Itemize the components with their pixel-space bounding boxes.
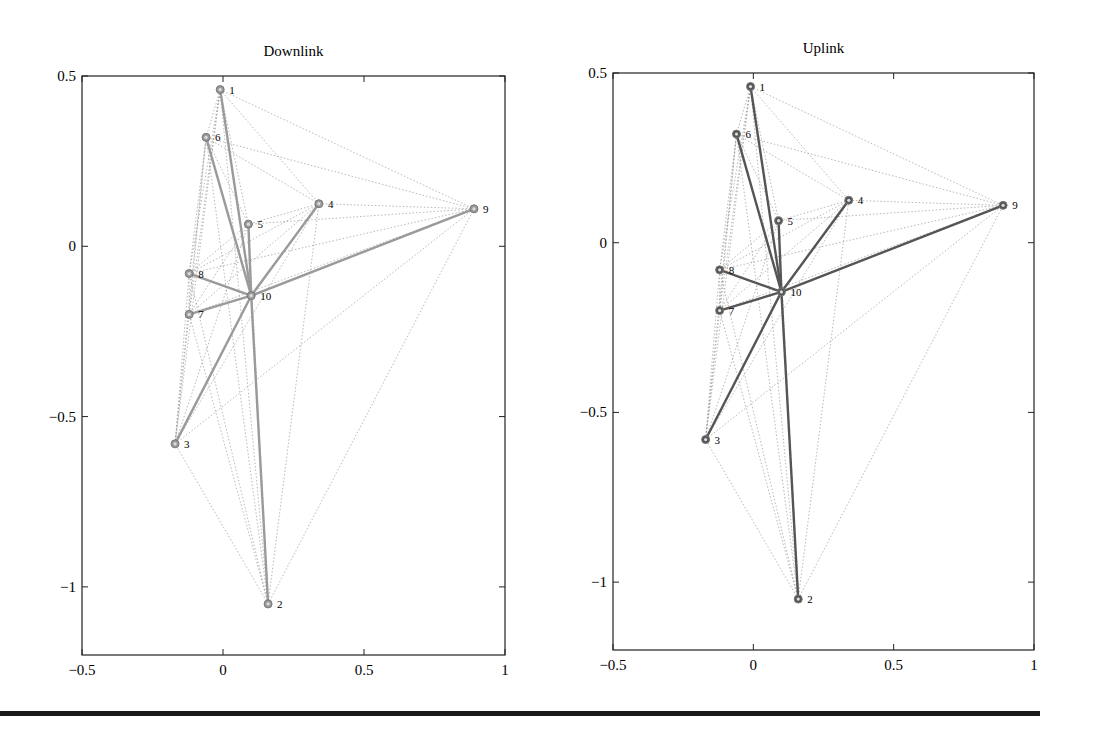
bold-edges <box>175 90 474 604</box>
node-label: 10 <box>790 286 802 298</box>
node-label: 7 <box>729 305 735 317</box>
node-label: 1 <box>229 84 235 96</box>
x-tick-label: 0 <box>219 662 227 678</box>
panel-downlink: Downlink−0.500.510.50−0.5−112345678910 <box>49 43 509 678</box>
y-tick-label: 0.5 <box>588 65 607 81</box>
x-tick-label: 0 <box>750 657 758 673</box>
figure-canvas: Downlink−0.500.510.50−0.5−112345678910Up… <box>0 0 1094 735</box>
node-label: 1 <box>760 81 766 93</box>
node-label: 2 <box>277 598 283 610</box>
chart-title: Downlink <box>264 43 325 59</box>
node-label: 9 <box>483 203 489 215</box>
y-tick-label: 0.5 <box>57 68 76 84</box>
chart-title: Uplink <box>803 40 845 56</box>
axes-frame <box>82 76 505 655</box>
dotted-edges <box>706 87 1004 600</box>
x-tick-label: 1 <box>501 662 509 678</box>
y-tick-label: 0 <box>600 235 608 251</box>
node-label: 5 <box>257 218 263 230</box>
node-label: 10 <box>260 290 272 302</box>
bold-edges <box>706 87 1004 600</box>
node-label: 6 <box>215 131 221 143</box>
node-label: 2 <box>807 593 813 605</box>
node-label: 3 <box>184 438 190 450</box>
x-tick-label: 0.5 <box>355 662 374 678</box>
y-tick-label: −0.5 <box>49 409 76 425</box>
y-tick-label: −1 <box>591 574 607 590</box>
node-label: 6 <box>745 128 751 140</box>
y-tick-label: −1 <box>60 579 76 595</box>
node-label: 7 <box>198 308 204 320</box>
node-label: 3 <box>715 434 721 446</box>
x-tick-label: 0.5 <box>884 657 903 673</box>
axes-frame <box>613 73 1034 650</box>
node-label: 8 <box>729 264 735 276</box>
x-tick-label: 1 <box>1030 657 1038 673</box>
x-tick-label: −0.5 <box>68 662 95 678</box>
bottom-rule <box>0 711 1040 716</box>
x-tick-label: −0.5 <box>599 657 626 673</box>
node-label: 4 <box>858 194 864 206</box>
y-tick-label: −0.5 <box>580 404 607 420</box>
node-label: 4 <box>328 198 334 210</box>
panel-uplink: Uplink−0.500.510.50−0.5−112345678910 <box>580 40 1038 673</box>
y-tick-label: 0 <box>69 238 77 254</box>
node-label: 9 <box>1012 199 1018 211</box>
dotted-edges <box>175 90 474 604</box>
node-label: 8 <box>198 268 204 280</box>
node-label: 5 <box>788 215 794 227</box>
